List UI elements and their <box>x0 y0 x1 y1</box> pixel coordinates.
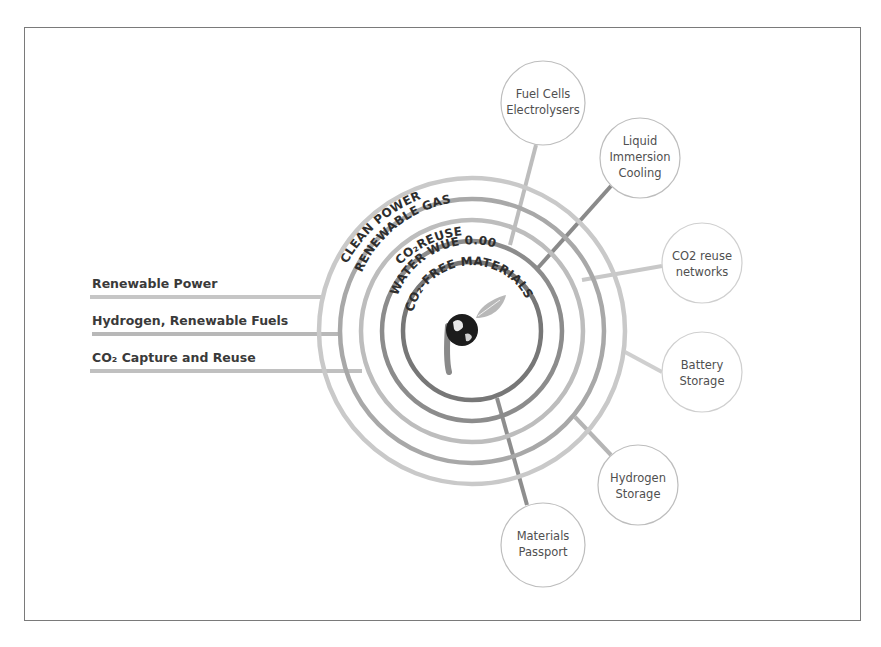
bubble-hydrogen-line1: Hydrogen <box>610 471 666 485</box>
bubble-battery-line1: Battery <box>681 358 724 372</box>
bubble-battery-storage: Battery Storage <box>662 332 742 412</box>
input-labels: Renewable Power Hydrogen, Renewable Fuel… <box>92 276 288 365</box>
bubble-materials-line1: Materials <box>517 529 570 543</box>
output-bubbles: Fuel Cells Electrolysers Liquid Immersio… <box>501 61 742 587</box>
input-label-hydrogen: Hydrogen, Renewable Fuels <box>92 313 288 328</box>
bubble-co2-reuse-networks: CO2 reuse networks <box>662 223 742 303</box>
globe-leaf-logo-icon <box>446 295 506 372</box>
bubble-materials-line2: Passport <box>518 545 568 559</box>
bubble-fuel-cells-line1: Fuel Cells <box>516 87 571 101</box>
bubble-liquid-immersion-cooling: Liquid Immersion Cooling <box>600 118 680 198</box>
bubble-hydrogen-storage: Hydrogen Storage <box>598 445 678 525</box>
bubble-fuel-cells-line2: Electrolysers <box>506 103 580 117</box>
bubble-battery-line2: Storage <box>680 374 725 388</box>
bubble-fuel-cells: Fuel Cells Electrolysers <box>501 61 585 145</box>
bubble-liquid-line1: Liquid <box>623 134 658 148</box>
input-label-co2-capture: CO₂ Capture and Reuse <box>92 350 256 365</box>
circular-economy-diagram: CLEAN POWER RENEWABLE GAS CO₂REUSE WATER… <box>0 0 881 647</box>
input-label-renewable-power: Renewable Power <box>92 276 218 291</box>
bubble-co2-line1: CO2 reuse <box>672 249 732 263</box>
bubble-hydrogen-line2: Storage <box>616 487 661 501</box>
bubble-liquid-line2: Immersion <box>609 150 670 164</box>
bubble-co2-line2: networks <box>676 265 729 279</box>
bubble-liquid-line3: Cooling <box>618 166 661 180</box>
bubble-materials-passport: Materials Passport <box>501 503 585 587</box>
connector-battery <box>625 352 662 372</box>
